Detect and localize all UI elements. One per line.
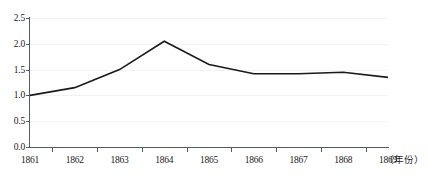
y-tick-label-text: 1.5 xyxy=(1,65,25,75)
x-tick-mark xyxy=(97,148,98,152)
x-tick-label-1866: 1866 xyxy=(231,154,277,166)
y-tick-label: 0.0 xyxy=(0,142,25,152)
x-axis-unit-label: （年份） xyxy=(384,154,424,166)
x-tick-label-1868: 1868 xyxy=(320,154,366,166)
x-tick-label-1867: 1867 xyxy=(276,154,322,166)
y-tick-label: 2.5 xyxy=(0,13,25,23)
series-line xyxy=(30,18,388,147)
y-tick-label-text: 1.0 xyxy=(1,90,25,100)
y-tick-label: 1.0 xyxy=(0,90,25,100)
y-tick-label: 2.0 xyxy=(0,39,25,49)
x-tick-mark xyxy=(187,148,188,152)
x-tick-mark xyxy=(52,148,53,152)
y-tick-mark xyxy=(26,147,30,148)
x-tick-label-1863: 1863 xyxy=(97,154,143,166)
y-tick-label-text: 2.5 xyxy=(1,13,25,23)
x-tick-label-1861: 1861 xyxy=(7,154,53,166)
x-tick-mark xyxy=(366,148,367,152)
y-tick-label-text: 2.0 xyxy=(1,39,25,49)
x-tick-mark xyxy=(321,148,322,152)
x-axis-line xyxy=(29,147,389,148)
x-tick-mark xyxy=(231,148,232,152)
plot-area xyxy=(30,18,388,147)
y-tick-label-text: 0.5 xyxy=(1,116,25,126)
y-tick-label: 1.5 xyxy=(0,65,25,75)
x-tick-label-1862: 1862 xyxy=(52,154,98,166)
y-tick-label: 0.5 xyxy=(0,116,25,126)
x-tick-label-1865: 1865 xyxy=(186,154,232,166)
line-chart: 0.00.51.01.52.02.5 186118621863186418651… xyxy=(0,0,428,185)
y-tick-label-text: 0.0 xyxy=(1,142,25,152)
x-tick-mark xyxy=(142,148,143,152)
x-tick-label-1864: 1864 xyxy=(141,154,187,166)
x-tick-mark xyxy=(276,148,277,152)
